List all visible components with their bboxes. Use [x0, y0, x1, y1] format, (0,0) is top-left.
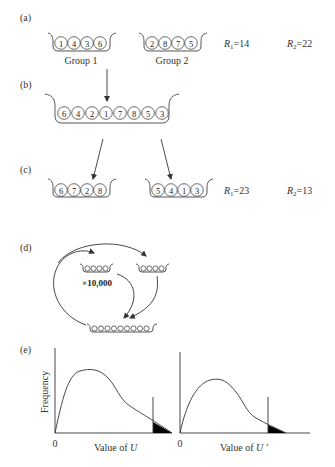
ball: 7 — [176, 39, 180, 49]
panel-a: (a) 1 4 3 6 Group 1 2 8 7 5 Group 2 R1=1… — [20, 12, 312, 66]
group-1-bowl: 1 4 3 6 Group 1 — [48, 33, 116, 66]
panel-c-label: (c) — [20, 164, 31, 176]
panel-e-label: (e) — [20, 344, 31, 356]
r1-stat: R1=23 — [223, 185, 249, 198]
ball: 3 — [160, 109, 164, 119]
ball: 6 — [98, 39, 102, 49]
ball: 1 — [59, 39, 63, 49]
panel-d: (d) ×10,000 — [20, 242, 169, 332]
r1-stat: R1=14 — [223, 38, 249, 51]
ball: 7 — [72, 186, 76, 196]
resampled-group-2: 5 4 1 3 — [145, 179, 213, 197]
resampled-group-1: 6 7 2 8 — [48, 179, 116, 197]
panel-c: (c) 6 7 2 8 5 4 1 3 R1=23 R2=13 — [20, 164, 312, 198]
ball: 3 — [195, 186, 199, 196]
ball: 6 — [62, 109, 66, 119]
ball: 8 — [98, 186, 102, 196]
ball: 6 — [59, 186, 63, 196]
ball: 8 — [163, 39, 167, 49]
panel-a-label: (a) — [20, 12, 31, 24]
panel-b: (b) 6 4 2 1 7 8 5 3 — [20, 79, 179, 123]
ball: 2 — [85, 186, 89, 196]
origin-label: 0 — [178, 438, 183, 449]
x-axis-label: Value of U — [94, 442, 138, 453]
r2-stat: R2=13 — [286, 185, 312, 198]
ball: 2 — [90, 109, 94, 119]
group-1-balls: 1 4 3 6 — [55, 37, 107, 50]
ball: 7 — [118, 109, 122, 119]
mini-pooled-bowl — [87, 324, 157, 332]
panel-e: (e) Frequency 0 Value of U 0 Value of U … — [20, 344, 310, 453]
ball: 1 — [104, 109, 108, 119]
arrow-resample-2 — [161, 139, 171, 179]
histogram-u: 0 Value of U — [53, 348, 173, 453]
repeat-count: ×10,000 — [82, 278, 112, 288]
frequency-axis-label: Frequency — [39, 371, 50, 413]
group-1-label: Group 1 — [64, 55, 97, 66]
distribution-curve — [180, 379, 286, 433]
panel-d-label: (d) — [20, 242, 32, 254]
ball: 2 — [150, 39, 154, 49]
ball: 3 — [85, 39, 89, 49]
x-axis-label: Value of U ′ — [220, 442, 269, 453]
pooled-balls: 6 4 2 1 7 8 5 3 — [58, 107, 169, 120]
ball: 5 — [156, 186, 160, 196]
r2-stat: R2=22 — [286, 38, 312, 51]
group-2-bowl: 2 8 7 5 Group 2 — [139, 33, 207, 66]
mini-bowl-1 — [80, 264, 113, 272]
ball: 5 — [146, 109, 150, 119]
panel-b-label: (b) — [20, 79, 32, 91]
ball: 5 — [189, 39, 193, 49]
mini-bowl-2 — [136, 264, 169, 272]
group-2-balls: 2 8 7 5 — [146, 37, 198, 50]
group-2-label: Group 2 — [155, 55, 188, 66]
origin-label: 0 — [53, 438, 58, 449]
ball: 8 — [132, 109, 136, 119]
histogram-u-prime: 0 Value of U ′ — [178, 352, 311, 453]
pooled-bowl: 6 4 2 1 7 8 5 3 — [45, 94, 179, 123]
arrow-bowl-1-to-pool — [117, 274, 134, 318]
arrow-resample-1 — [93, 139, 103, 179]
randomization-test-diagram: (a) 1 4 3 6 Group 1 2 8 7 5 Group 2 R1=1… — [0, 0, 335, 467]
ball: 1 — [182, 186, 186, 196]
